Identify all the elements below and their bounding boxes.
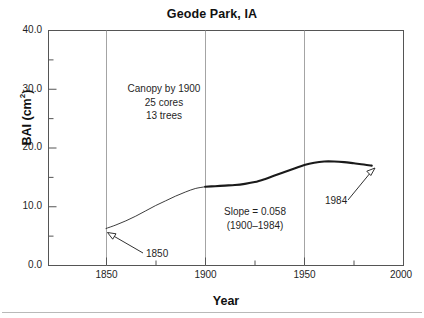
annotation-label-1850: 1850: [146, 248, 168, 259]
y-axis-title-superscript: 2: [18, 94, 27, 98]
arrow-1984: [348, 168, 375, 200]
y-axis-title: BAI (cm2): [18, 68, 33, 168]
y-axis-title-close: ): [20, 90, 34, 94]
page-rule-divider: [2, 312, 422, 313]
x-axis-title: Year: [48, 294, 404, 308]
xtick-label-1900: 1900: [183, 269, 229, 280]
annotation-canopy-line: Canopy by 1900: [112, 82, 216, 96]
y-axis-major-ticks: [49, 31, 57, 266]
arrow-1850: [108, 233, 144, 254]
y-axis-title-text: BAI (cm: [20, 98, 34, 145]
xtick-label-1850: 1850: [84, 269, 130, 280]
xtick-label-2000: 2000: [378, 269, 424, 280]
annotation-slope-period: (1900–1984): [203, 219, 307, 233]
series-line-pre-canopy: [106, 187, 205, 229]
x-axis-minor-ticks: [156, 261, 354, 266]
ytick-label-40: 40.0: [2, 24, 42, 35]
ytick-label-10: 10.0: [2, 200, 42, 211]
annotation-slope-value: Slope = 0.058: [203, 205, 307, 219]
annotation-label-1984: 1984: [325, 195, 347, 206]
annotation-stand-info: Canopy by 1900 25 cores 13 trees: [112, 82, 216, 123]
annotation-trees-line: 13 trees: [112, 109, 216, 123]
annotation-cores-line: 25 cores: [112, 96, 216, 110]
chart-figure: Geode Park, IA: [0, 0, 424, 318]
annotation-slope-info: Slope = 0.058 (1900–1984): [203, 205, 307, 232]
series-line-post-canopy: [205, 161, 372, 186]
ytick-label-0: 0.0: [2, 259, 42, 270]
xtick-label-1950: 1950: [282, 269, 328, 280]
